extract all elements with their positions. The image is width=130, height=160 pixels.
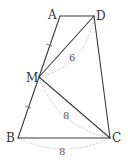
segment-mc [39, 77, 110, 138]
vertex-label-a: A [47, 8, 57, 22]
equal-tick-am [46, 44, 52, 46]
edge-ma [39, 16, 60, 77]
segment-md [39, 16, 94, 77]
length-label-bc: 8 [59, 146, 65, 157]
vertex-label-c: C [112, 131, 121, 145]
trapezoid-diagram: A D M B C 6 8 8 [0, 0, 130, 160]
length-label-mc: 8 [63, 110, 69, 121]
vertex-label-d: D [96, 9, 106, 23]
length-label-md: 6 [69, 52, 75, 63]
vertex-label-m: M [26, 71, 38, 85]
vertex-label-b: B [6, 131, 15, 145]
edge-dc [94, 16, 110, 138]
